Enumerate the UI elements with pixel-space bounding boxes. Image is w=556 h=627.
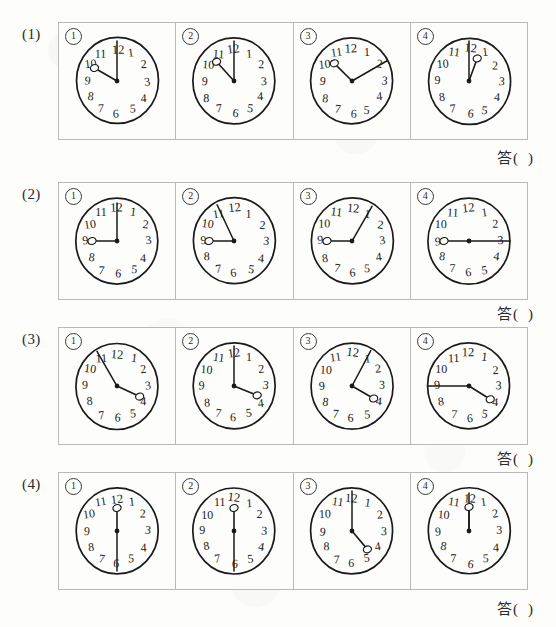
clock-hour-number: 2	[376, 217, 384, 232]
clock-hour-number: 8	[88, 250, 96, 265]
row-number-label: (2)	[22, 186, 41, 203]
clock-hour-number: 8	[323, 539, 329, 553]
clock-hour-number: 10	[317, 56, 330, 71]
clock-hour-number: 2	[142, 217, 149, 232]
hour-hand	[439, 236, 469, 245]
clock-hour-number: 11	[446, 205, 458, 220]
analog-clock: 121234567891011	[300, 28, 404, 134]
clock-hour-number: 1	[481, 349, 489, 364]
clock-hour-number: 4	[258, 251, 265, 265]
clock-hour-number: 9	[200, 523, 206, 537]
clock-center-dot	[466, 529, 471, 534]
clock-hour-number: 12	[462, 345, 475, 359]
clock-hour-number: 1	[127, 45, 135, 60]
clock-cell[interactable]: 2121234567891011	[176, 473, 293, 589]
hour-hand	[469, 54, 482, 81]
analog-clock: 121234567891011	[300, 188, 404, 294]
clock-cell[interactable]: 3121234567891011	[294, 328, 411, 444]
clock-hour-number: 6	[232, 556, 239, 570]
clock-cell[interactable]: 2121234567891011	[176, 23, 293, 139]
clock-hour-number: 9	[82, 378, 88, 392]
clock-cell[interactable]: 2121234567891011	[176, 328, 293, 444]
clock-hour-number: 7	[98, 551, 106, 566]
clock-hour-number: 11	[94, 494, 107, 510]
clock-hour-number: 6	[232, 106, 239, 121]
clock-hour-number: 1	[246, 496, 253, 510]
clock-hour-number: 10	[82, 506, 96, 522]
clock-hour-number: 8	[87, 89, 95, 104]
clock-hour-number: 6	[347, 411, 353, 425]
clock-hour-number: 8	[204, 91, 210, 105]
hour-hand	[112, 503, 122, 531]
clock-hour-number: 7	[334, 102, 341, 116]
clock-hour-number: 11	[331, 494, 345, 510]
clock-hour-number: 10	[200, 362, 213, 377]
clock-cell[interactable]: 4121234567891011	[411, 183, 527, 299]
clock-hour-number: 4	[258, 539, 266, 554]
clock-cell[interactable]: 3121234567891011	[294, 473, 411, 589]
clock-hour-number: 7	[98, 408, 106, 423]
clock-cell[interactable]: 3121234567891011	[294, 23, 411, 139]
analog-clock: 121234567891011	[417, 333, 521, 439]
clock-cell[interactable]: 1121234567891011	[59, 328, 176, 444]
clock-hour-number: 7	[98, 263, 105, 277]
clock-hour-number: 11	[329, 45, 342, 60]
clock-cell[interactable]: 4121234567891011	[411, 328, 527, 444]
clock-cell[interactable]: 2121234567891011	[176, 183, 293, 299]
analog-clock: 121234567891011	[182, 188, 286, 294]
clock-center-dot	[115, 79, 120, 84]
clock-hour-number: 6	[114, 410, 122, 425]
hour-hand	[322, 236, 352, 245]
clock-center-dot	[232, 384, 237, 389]
clock-cell[interactable]: 1121234567891011	[59, 473, 176, 589]
clock-hour-number: 2	[376, 507, 383, 521]
answer-word: 答	[497, 451, 513, 467]
hour-hand	[469, 386, 495, 404]
clock-cell[interactable]: 4121234567891011	[411, 473, 527, 589]
clock-hour-number: 7	[98, 101, 104, 115]
clock-hour-number: 3	[261, 74, 268, 88]
clock-cell[interactable]: 4121234567891011	[411, 23, 527, 139]
clock-hour-number: 7	[451, 407, 458, 421]
clock-cell[interactable]: 1121234567891011	[59, 183, 176, 299]
clock-hour-number: 1	[129, 204, 137, 219]
clock-hour-number: 8	[86, 394, 93, 409]
clock-center-dot	[115, 384, 120, 389]
answer-blank[interactable]: 答()	[497, 302, 534, 323]
clock-hour-number: 5	[363, 103, 369, 117]
clock-hour-number: 9	[434, 73, 440, 87]
analog-clock: 121234567891011	[300, 478, 404, 584]
clock-hour-number: 4	[493, 249, 501, 264]
analog-clock: 121234567891011	[65, 333, 169, 439]
clock-hour-number: 3	[143, 74, 151, 89]
clock-hour-number: 3	[496, 523, 502, 537]
clock-hour-number: 7	[333, 261, 341, 276]
answer-blank[interactable]: 答()	[497, 447, 534, 468]
clock-cell[interactable]: 1121234567891011	[59, 23, 176, 139]
clock-hour-number: 9	[202, 74, 209, 88]
answer-blank[interactable]: 答()	[497, 146, 534, 167]
analog-clock: 121234567891011	[417, 478, 521, 584]
clock-center-dot	[466, 239, 471, 244]
clock-hour-number: 5	[246, 406, 253, 421]
analog-clock: 121234567891011	[182, 333, 286, 439]
clock-hour-number: 4	[493, 540, 499, 554]
clock-hour-number: 10	[436, 56, 449, 71]
clock-center-dot	[349, 79, 354, 84]
clock-hour-number: 11	[95, 205, 107, 219]
clock-hour-number: 1	[481, 45, 489, 60]
clock-hour-number: 12	[226, 41, 240, 56]
clock-center-dot	[232, 79, 237, 84]
clock-hour-number: 4	[493, 90, 500, 104]
clock-center-dot	[115, 529, 120, 534]
clock-hour-number: 5	[130, 102, 136, 116]
clock-hour-number: 3	[379, 378, 385, 392]
clock-cell[interactable]: 3121234567891011	[294, 183, 411, 299]
answer-blank[interactable]: 答()	[497, 597, 534, 618]
clock-hour-number: 12	[461, 200, 475, 215]
hour-hand	[234, 386, 262, 400]
clock-hour-number: 5	[130, 406, 137, 420]
analog-clock: 121234567891011	[182, 478, 286, 584]
clock-hour-number: 8	[437, 394, 445, 409]
clock-hour-number: 9	[434, 524, 441, 538]
